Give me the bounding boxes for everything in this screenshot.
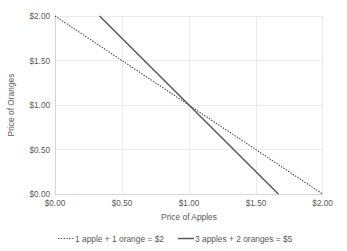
y-tick-label: $1.50 (30, 57, 51, 66)
legend-item-label: 1 apple + 1 orange = $2 (75, 234, 164, 244)
legend-item-label: 3 apples + 2 oranges = $5 (195, 234, 293, 244)
y-tick-label: $0.00 (30, 190, 51, 199)
x-tick-label: $0.00 (45, 199, 66, 208)
budget-constraint-chart: $2.00 $1.50 $1.00 $0.50 $0.00 $0.00 $0.5… (0, 0, 347, 251)
x-tick-label: $0.50 (112, 199, 133, 208)
y-tick-label: $2.00 (30, 12, 51, 21)
x-tick-label: $1.00 (179, 199, 200, 208)
y-tick-label: $0.50 (30, 146, 51, 155)
x-tick-label: $1.50 (246, 199, 267, 208)
y-tick-label: $1.00 (30, 101, 51, 110)
chart-canvas: $2.00 $1.50 $1.00 $0.50 $0.00 $0.00 $0.5… (0, 0, 347, 251)
x-axis-title: Price of Apples (161, 212, 217, 222)
x-tick-label: $2.00 (312, 199, 333, 208)
y-axis-title: Price of Oranges (6, 74, 16, 137)
